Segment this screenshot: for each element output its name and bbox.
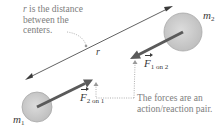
mass-1-subscript: 1	[21, 119, 25, 127]
pointer-arrowhead-icon	[94, 82, 99, 86]
force-vector-symbol: F	[144, 58, 151, 69]
distance-arrowhead-right-icon	[164, 6, 173, 12]
forces-caption-line-1: The forces are an	[137, 93, 212, 104]
distance-label: r	[96, 46, 100, 57]
gravitational-force-diagram: r is the distance between the centers. r…	[0, 0, 222, 128]
force-vector-symbol: F	[80, 92, 87, 103]
force-2-on-1-subscript: 2 on 1	[87, 97, 105, 105]
force-2-on-1-label: F2 on 1	[80, 92, 104, 107]
distance-arrowhead-left-icon	[25, 73, 33, 80]
pointer-arrowhead-icon	[133, 60, 138, 64]
distance-caption: r is the distance between the centers.	[23, 4, 83, 36]
forces-caption: The forces are an action/reaction pair.	[137, 93, 212, 114]
force-1-on-2-subscript: 1 on 2	[151, 63, 169, 71]
caption-line-3: centers.	[23, 25, 83, 36]
mass-2-symbol: m	[203, 9, 211, 21]
caption-line-1-rest: is the distance	[27, 4, 83, 14]
mass-2-label: m2	[203, 10, 214, 25]
force-1-on-2-label: F1 on 2	[144, 58, 168, 73]
mass-2-subscript: 2	[211, 15, 215, 23]
pointer-dot-icon	[85, 45, 88, 48]
caption-line-2: between the	[23, 15, 83, 26]
mass-1-label: m1	[13, 114, 24, 128]
mass-1-symbol: m	[13, 113, 21, 125]
forces-caption-line-2: action/reaction pair.	[137, 104, 212, 115]
